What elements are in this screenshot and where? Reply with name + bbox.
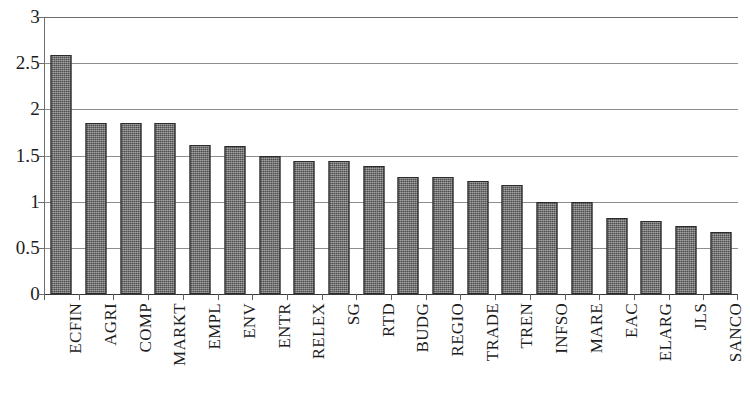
x-axis-tick-mark (460, 294, 461, 300)
y-axis-tick-label: 1.5 (4, 146, 40, 165)
y-axis-tick-mark (38, 202, 45, 203)
x-axis-tick-mark (113, 294, 114, 300)
bar-slot (460, 17, 495, 294)
bar-regio[interactable] (433, 177, 454, 294)
x-axis-tick-mark (356, 294, 357, 300)
bar-slot (183, 17, 218, 294)
bar-slot (356, 17, 391, 294)
bar-eac[interactable] (606, 218, 627, 294)
bar-budg[interactable] (398, 177, 419, 294)
bar-slot (426, 17, 461, 294)
y-axis-tick-mark (38, 63, 45, 64)
bar-jls[interactable] (675, 226, 696, 294)
x-axis-tick-mark (703, 294, 704, 300)
y-axis-tick-mark (38, 248, 45, 249)
y-axis-tick-mark (38, 17, 45, 18)
x-axis-label-slot: INFSO (530, 301, 565, 401)
x-axis-label-slot: EAC (599, 301, 634, 401)
x-axis-label-slot: TRADE (460, 301, 495, 401)
x-axis-label-slot: ENV (218, 301, 253, 401)
bar-slot (565, 17, 600, 294)
y-axis-tick-mark (38, 156, 45, 157)
x-axis-tick-marks (44, 294, 738, 301)
bar-slot (148, 17, 183, 294)
bar-env[interactable] (224, 146, 245, 294)
bar-elarg[interactable] (641, 221, 662, 294)
bar-slot (530, 17, 565, 294)
x-axis-label-slot: EMPL (183, 301, 218, 401)
x-axis-label-slot: ECFIN (44, 301, 79, 401)
y-axis-tick-label: 2 (4, 99, 40, 118)
bar-comp[interactable] (120, 123, 141, 294)
bar-slot (113, 17, 148, 294)
bar-slot (79, 17, 114, 294)
x-axis-tick-mark (426, 294, 427, 300)
bar-ecfin[interactable] (51, 55, 72, 294)
bar-slot (599, 17, 634, 294)
bar-mare[interactable] (571, 202, 592, 294)
bar-sanco[interactable] (710, 232, 731, 294)
bar-slot (287, 17, 322, 294)
bar-entr[interactable] (259, 156, 280, 294)
x-axis-tick-mark (322, 294, 323, 300)
x-axis-label-slot: REGIO (426, 301, 461, 401)
x-axis-label-slot: ELARG (634, 301, 669, 401)
x-axis-tick-mark (737, 294, 738, 300)
x-axis-category-labels: ECFINAGRICOMPMARKTEMPLENVENTRRELEXSGRTDB… (44, 301, 738, 401)
x-axis-label-slot: JLS (669, 301, 704, 401)
x-axis-label-slot: RELEX (287, 301, 322, 401)
x-axis-label-slot: MARE (565, 301, 600, 401)
bar-infso[interactable] (537, 202, 558, 294)
bar-agri[interactable] (86, 123, 107, 294)
bar-relex[interactable] (294, 161, 315, 294)
x-axis-tick-mark (252, 294, 253, 300)
x-axis-tick-mark (218, 294, 219, 300)
bar-sg[interactable] (328, 161, 349, 294)
y-axis-tick-mark (38, 109, 45, 110)
bar-chart-figure: 00.511.522.53 ECFINAGRICOMPMARKTEMPLENVE… (0, 0, 750, 401)
x-axis-label-slot: BUDG (391, 301, 426, 401)
y-axis-tick-mark (38, 294, 45, 295)
y-axis-tick-label: 2.5 (4, 53, 40, 72)
y-axis-tick-labels: 00.511.522.53 (0, 0, 40, 401)
bar-rtd[interactable] (363, 166, 384, 294)
x-axis-tick-mark (287, 294, 288, 300)
bar-tren[interactable] (502, 185, 523, 294)
bar-markt[interactable] (155, 123, 176, 294)
x-axis-label-sanco: SANCO (727, 303, 744, 362)
bar-slot (218, 17, 253, 294)
bar-empl[interactable] (190, 145, 211, 294)
y-axis-tick-label: 3 (4, 7, 40, 26)
x-axis-label-slot: MARKT (148, 301, 183, 401)
x-axis-label-slot: COMP (113, 301, 148, 401)
bar-slot (391, 17, 426, 294)
x-axis-tick-mark (669, 294, 670, 300)
x-axis-tick-mark (79, 294, 80, 300)
x-axis-tick-mark (183, 294, 184, 300)
bar-trade[interactable] (467, 181, 488, 294)
x-axis-tick-mark (148, 294, 149, 300)
bar-slot (44, 17, 79, 294)
x-axis-label-slot: AGRI (79, 301, 114, 401)
y-axis-tick-label: 0 (4, 284, 40, 303)
x-axis-label-slot: TREN (495, 301, 530, 401)
x-axis-tick-mark (495, 294, 496, 300)
x-axis-label-slot: RTD (356, 301, 391, 401)
plot-area (44, 17, 738, 294)
x-axis-label-slot: SANCO (703, 301, 738, 401)
bar-slot (495, 17, 530, 294)
bar-slot (669, 17, 704, 294)
bar-slot (322, 17, 357, 294)
x-axis-tick-mark (391, 294, 392, 300)
y-axis-tick-label: 0.5 (4, 238, 40, 257)
x-axis-tick-mark (599, 294, 600, 300)
bar-slot (634, 17, 669, 294)
y-axis-tick-label: 1 (4, 192, 40, 211)
x-axis-tick-mark (530, 294, 531, 300)
x-axis-label-slot: ENTR (252, 301, 287, 401)
x-axis-label-slot: SG (322, 301, 357, 401)
x-axis-tick-mark (634, 294, 635, 300)
bar-slot (703, 17, 738, 294)
x-axis-tick-mark (565, 294, 566, 300)
bar-slot (252, 17, 287, 294)
